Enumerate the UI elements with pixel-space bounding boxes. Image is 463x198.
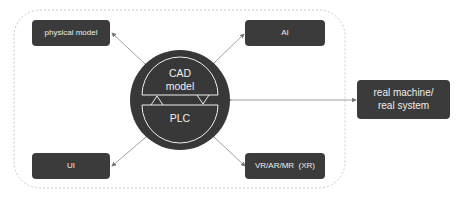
cad-label: CAD bbox=[160, 67, 200, 80]
plc-label: PLC bbox=[160, 112, 200, 125]
real-machine-label: real machine/ bbox=[373, 87, 433, 100]
arrow-ui bbox=[112, 137, 146, 166]
node-xr: VR/AR/MR (XR) bbox=[245, 153, 325, 179]
node-physical-model: physical model bbox=[32, 20, 110, 46]
real-system-label: real system bbox=[378, 100, 429, 113]
cad-model-label: CAD model bbox=[160, 67, 200, 92]
node-ai: AI bbox=[245, 20, 325, 46]
node-ui: UI bbox=[32, 153, 110, 179]
arrow-physical-model bbox=[112, 33, 145, 64]
arrow-ai bbox=[214, 34, 244, 63]
node-real-machine: real machine/ real system bbox=[357, 80, 450, 119]
arrow-xr bbox=[214, 137, 245, 166]
model-label: model bbox=[160, 80, 200, 93]
